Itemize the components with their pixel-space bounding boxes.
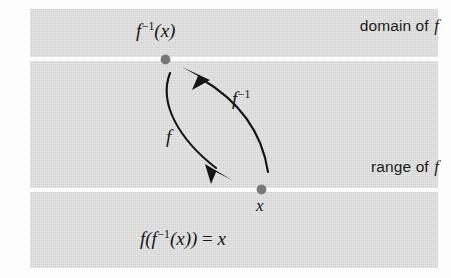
- forward-arrow: [167, 73, 232, 184]
- inverse-arrow: [182, 67, 268, 172]
- arrow-layer: [0, 0, 451, 278]
- inverse-arrowhead: [182, 67, 210, 90]
- forward-arrowhead: [205, 164, 232, 184]
- inverse-function-diagram: domain of f range of f f−1(x) x f f−1 f(…: [0, 0, 451, 278]
